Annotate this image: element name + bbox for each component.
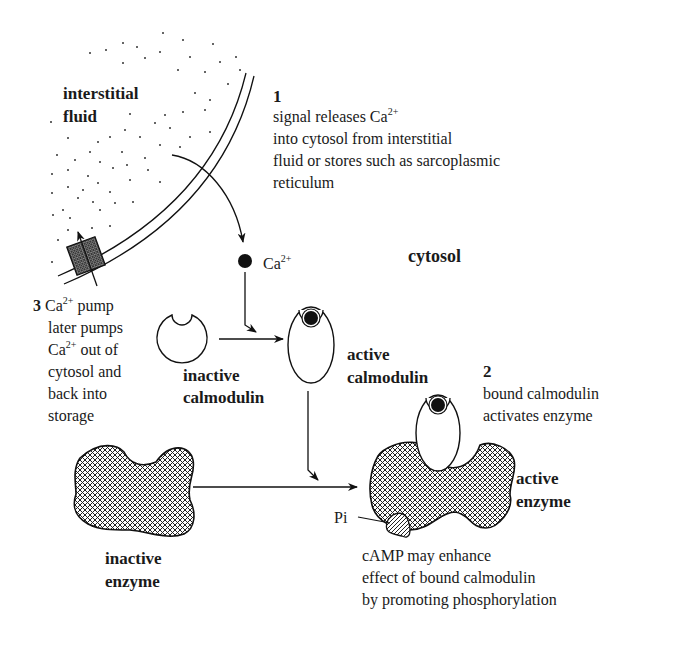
label-active-calmodulin-1: active — [347, 344, 389, 365]
label-fluid: fluid — [63, 106, 97, 127]
step2-number: 2 — [483, 361, 492, 382]
label-interstitial: interstitial — [63, 83, 139, 104]
interstitial-dots — [50, 32, 241, 263]
calmodulin-to-enzyme-arrow — [308, 391, 318, 480]
note-line1: cAMP may enhance — [362, 545, 491, 566]
label-active-enzyme-2: enzyme — [516, 491, 571, 512]
step3-line3: Ca2+ out of — [48, 339, 118, 360]
inactive-enzyme-shape — [74, 446, 194, 537]
active-calmodulin-shape — [288, 307, 334, 383]
label-cytosol: cytosol — [408, 246, 461, 267]
step3-line5: back into — [48, 383, 107, 404]
step1-line2: into cytosol from interstitial — [273, 128, 452, 149]
bound-calmodulin-shape — [416, 395, 460, 471]
step1-line4: reticulum — [273, 172, 334, 193]
note-line2: effect of bound calmodulin — [362, 567, 535, 588]
step2-line2: activates enzyme — [483, 405, 593, 426]
step1-line3: fluid or stores such as sarcoplasmic — [273, 150, 500, 171]
label-inactive-enzyme-2: enzyme — [105, 571, 160, 592]
step2-line1: bound calmodulin — [483, 383, 599, 404]
step1-line1: signal releases Ca2+ — [273, 106, 398, 127]
step3-line2: later pumps — [48, 317, 123, 338]
step3-line1: 3 Ca2+ pump — [33, 295, 114, 316]
step3-line6: storage — [48, 405, 94, 426]
label-phosphate: Pi — [334, 507, 347, 528]
step1-number: 1 — [273, 86, 282, 107]
label-active-calmodulin-2: calmodulin — [347, 367, 428, 388]
signal-arrow — [172, 155, 243, 242]
calcium-ion — [238, 254, 252, 268]
note-line3: by promoting phosphorylation — [362, 589, 557, 610]
label-calcium-ion: Ca2+ — [263, 253, 291, 274]
label-inactive-calmodulin-1: inactive — [183, 365, 240, 386]
label-inactive-calmodulin-2: calmodulin — [183, 387, 264, 408]
step3-line4: cytosol and — [48, 361, 121, 382]
label-inactive-enzyme-1: inactive — [105, 548, 162, 569]
inactive-calmodulin-shape — [157, 315, 207, 363]
phosphate-group — [386, 513, 410, 537]
calcium-binding-arrow — [245, 272, 256, 332]
label-active-enzyme-1: active — [516, 468, 558, 489]
